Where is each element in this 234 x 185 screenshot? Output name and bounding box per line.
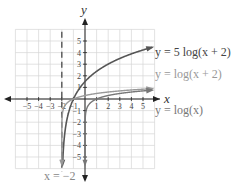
svg-text:3: 3	[118, 102, 122, 111]
svg-text:−5: −5	[72, 153, 81, 162]
label-5log-x-plus-2: y = 5 log(x + 2)	[155, 45, 231, 59]
svg-text:−3: −3	[72, 130, 81, 139]
svg-text:2: 2	[77, 72, 81, 81]
axes	[4, 18, 160, 182]
y-axis-label: y	[79, 2, 87, 17]
svg-text:−5: −5	[23, 102, 32, 111]
svg-text:5: 5	[141, 102, 145, 111]
log-graph: −5−4−3−2−112345−5−4−3−2−112345 y x y = 5…	[0, 0, 234, 185]
label-log-x: y = log(x)	[155, 103, 203, 117]
svg-text:−1: −1	[72, 107, 81, 116]
svg-text:−2: −2	[72, 118, 81, 127]
asymptote-label: x = −2	[44, 169, 76, 183]
svg-text:−4: −4	[72, 141, 81, 150]
label-log-x-plus-2: y = log(x + 2)	[155, 67, 222, 81]
svg-text:−4: −4	[34, 102, 43, 111]
svg-text:2: 2	[106, 102, 110, 111]
svg-text:5: 5	[77, 37, 81, 46]
svg-text:3: 3	[77, 60, 81, 69]
svg-text:4: 4	[77, 49, 81, 58]
svg-text:−3: −3	[46, 102, 55, 111]
svg-text:4: 4	[129, 102, 133, 111]
svg-text:1: 1	[95, 102, 99, 111]
